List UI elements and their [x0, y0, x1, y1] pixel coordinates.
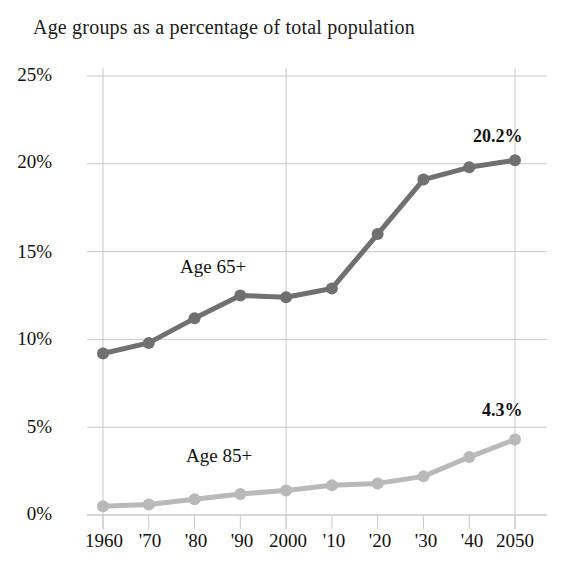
- data-point: [463, 161, 475, 173]
- value-label-age-65-2050: 20.2%: [473, 126, 523, 147]
- data-point: [326, 479, 338, 491]
- series-layer: [97, 154, 521, 512]
- data-point: [372, 228, 384, 240]
- data-point: [463, 451, 475, 463]
- value-label-age-85-2050: 4.3%: [482, 400, 523, 421]
- data-point: [234, 488, 246, 500]
- data-point: [234, 290, 246, 302]
- data-point: [97, 500, 109, 512]
- data-point: [280, 291, 292, 303]
- data-point: [143, 498, 155, 510]
- series-label-age-65: Age 65+: [180, 256, 246, 278]
- data-point: [97, 347, 109, 359]
- series-line-2: [103, 439, 515, 506]
- x-axis-ticks: [103, 515, 515, 529]
- plot-svg: [0, 0, 563, 588]
- data-point: [417, 470, 429, 482]
- data-point: [372, 477, 384, 489]
- data-point: [189, 493, 201, 505]
- data-point: [326, 282, 338, 294]
- data-point: [509, 154, 521, 166]
- chart-container: Age groups as a percentage of total popu…: [0, 0, 563, 588]
- data-point: [280, 484, 292, 496]
- data-point: [509, 433, 521, 445]
- series-label-age-85: Age 85+: [186, 445, 252, 467]
- data-point: [189, 312, 201, 324]
- data-point: [143, 337, 155, 349]
- series-line-1: [103, 160, 515, 353]
- data-point: [417, 174, 429, 186]
